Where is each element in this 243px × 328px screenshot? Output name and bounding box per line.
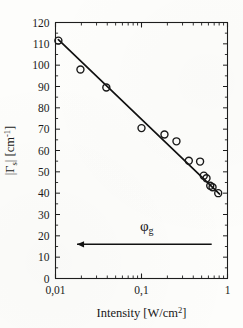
- x-tick-label: 0,01: [45, 284, 65, 297]
- y-axis-title: |Γs| [cm-1]: [2, 126, 19, 175]
- fit-line: [58, 40, 219, 194]
- x-axis-tick-labels: 0,010,11: [45, 284, 230, 297]
- y-axis-tick-labels: 0102030405060708090100110120: [32, 17, 50, 285]
- data-point-marker: [197, 158, 204, 165]
- scatter-plot-figure: 0102030405060708090100110120 0,010,11 φg…: [0, 0, 243, 328]
- axis-titles: Intensity [W/cm2]|Γs| [cm-1]: [2, 126, 187, 320]
- x-tick-label: 1: [225, 284, 231, 296]
- y-tick-label: 30: [38, 209, 50, 221]
- y-tick-label: 80: [38, 102, 50, 114]
- y-tick-label: 120: [32, 17, 50, 29]
- phi-g-annotation: φg: [77, 218, 212, 248]
- y-tick-label: 50: [38, 166, 50, 178]
- y-tick-label: 110: [33, 38, 50, 50]
- y-tick-label: 100: [32, 59, 50, 71]
- data-point-marker: [77, 66, 84, 73]
- y-tick-label: 20: [38, 230, 50, 242]
- y-tick-label: 10: [38, 251, 50, 263]
- figure-canvas: 0102030405060708090100110120 0,010,11 φg…: [0, 0, 243, 328]
- y-tick-label: 40: [38, 187, 50, 199]
- y-tick-label: 60: [38, 145, 50, 157]
- y-tick-label: 70: [38, 123, 50, 135]
- data-point-marker: [185, 157, 192, 164]
- data-point-marker: [173, 138, 180, 145]
- phi-g-label: φg: [140, 218, 154, 237]
- data-point-marker: [161, 131, 168, 138]
- y-tick-label: 90: [38, 81, 50, 93]
- arrow-head-left: [77, 241, 84, 247]
- data-point-marker: [138, 125, 145, 132]
- x-axis-title: Intensity [W/cm2]: [97, 305, 187, 320]
- x-tick-label: 0,1: [134, 284, 149, 297]
